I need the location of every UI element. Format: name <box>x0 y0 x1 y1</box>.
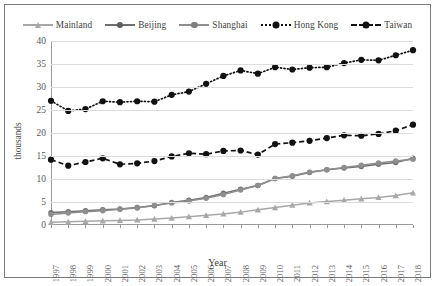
data-point <box>375 57 381 63</box>
x-axis-tick-mark <box>379 225 380 228</box>
data-point <box>289 140 295 146</box>
data-point <box>410 122 416 128</box>
x-axis-tick-mark <box>154 225 155 228</box>
data-point <box>83 209 88 214</box>
data-point <box>376 160 381 165</box>
data-point <box>255 71 261 77</box>
y-axis-tick-label: 20 <box>37 128 47 138</box>
y-axis-label: thousands <box>13 122 23 159</box>
data-point <box>203 81 209 87</box>
data-point <box>393 158 398 163</box>
legend-item-shanghai[interactable]: Shanghai <box>179 20 247 30</box>
data-point <box>134 98 140 104</box>
data-point <box>48 98 54 104</box>
gridline <box>51 41 413 42</box>
data-point <box>186 89 192 95</box>
legend-swatch-shanghai <box>179 21 209 30</box>
data-point <box>238 67 244 73</box>
x-axis-tick-mark <box>85 225 86 228</box>
y-axis-tick-label: 30 <box>37 82 47 92</box>
legend-item-mainland[interactable]: Mainland <box>23 20 92 30</box>
y-axis-tick-label: 15 <box>37 151 47 161</box>
data-point <box>169 92 175 98</box>
data-point <box>324 135 330 141</box>
chart-legend: Mainland Beijing Shanghai Hong Kong <box>5 15 430 35</box>
data-point <box>100 208 105 213</box>
data-point <box>221 192 226 197</box>
data-point <box>134 160 140 166</box>
legend-item-beijing[interactable]: Beijing <box>105 20 166 30</box>
data-point <box>66 210 71 215</box>
x-axis-tick-mark <box>103 225 104 228</box>
data-point <box>359 163 364 168</box>
x-axis-tick-mark <box>120 225 121 228</box>
circle-marker-icon <box>191 22 197 28</box>
gridline <box>51 87 413 88</box>
triangle-marker-icon <box>35 22 41 28</box>
x-axis-tick-mark <box>206 225 207 228</box>
y-axis-tick-label: 35 <box>37 59 47 69</box>
data-point <box>152 203 157 208</box>
data-point <box>255 183 260 188</box>
data-point <box>117 99 123 105</box>
data-point <box>238 187 243 192</box>
gridline <box>51 110 413 111</box>
data-point <box>134 205 139 210</box>
data-point <box>306 138 312 144</box>
chart-frame: Mainland Beijing Shanghai Hong Kong <box>4 4 431 278</box>
data-point <box>410 47 416 53</box>
x-axis-tick-mark <box>361 225 362 228</box>
circle-marker-icon <box>363 22 370 29</box>
gridline <box>51 179 413 180</box>
gridline <box>51 133 413 134</box>
data-point <box>48 157 54 163</box>
data-point <box>203 196 208 201</box>
data-point <box>324 64 330 70</box>
data-point <box>358 57 364 63</box>
data-point <box>48 212 53 217</box>
x-axis-tick-mark <box>327 225 328 228</box>
data-point <box>289 66 295 72</box>
legend-item-hong-kong[interactable]: Hong Kong <box>261 20 339 30</box>
data-point <box>151 99 157 105</box>
legend-swatch-taiwan <box>351 21 381 30</box>
data-point <box>65 163 71 169</box>
data-point <box>82 159 88 165</box>
y-axis-tick-label: 40 <box>37 36 47 46</box>
x-axis-tick-mark <box>413 225 414 228</box>
x-axis-tick-mark <box>223 225 224 228</box>
data-point <box>151 158 157 164</box>
x-axis-tick-mark <box>172 225 173 228</box>
x-axis-tick-mark <box>137 225 138 228</box>
legend-swatch-hong-kong <box>261 21 291 30</box>
data-point <box>117 207 122 212</box>
data-point <box>238 147 244 153</box>
circle-marker-icon <box>117 22 123 28</box>
gridline <box>51 202 413 203</box>
x-axis-tick-mark <box>292 225 293 228</box>
series-hong-kong <box>48 47 416 114</box>
legend-item-taiwan[interactable]: Taiwan <box>351 20 412 30</box>
x-axis-tick-mark <box>241 225 242 228</box>
y-axis-tick-label: 25 <box>37 105 47 115</box>
data-point <box>100 98 106 104</box>
circle-marker-icon <box>272 22 279 29</box>
data-point <box>220 148 226 154</box>
y-axis-tick-label: 0 <box>41 220 46 230</box>
y-axis-tick-label: 10 <box>37 174 47 184</box>
data-point <box>307 169 312 174</box>
legend-label: Mainland <box>56 20 92 30</box>
data-point <box>306 65 312 71</box>
data-point <box>410 157 415 162</box>
legend-swatch-beijing <box>105 21 135 30</box>
data-point <box>341 165 346 170</box>
legend-swatch-mainland <box>23 21 53 30</box>
x-axis-tick-mark <box>310 225 311 228</box>
plot-area: 0510152025303540199719981999200020012002… <box>51 41 413 225</box>
data-point <box>290 173 295 178</box>
data-point <box>393 52 399 58</box>
legend-label: Taiwan <box>384 20 412 30</box>
data-point <box>272 141 278 147</box>
legend-label: Beijing <box>138 20 166 30</box>
y-axis-tick-label: 5 <box>41 197 46 207</box>
